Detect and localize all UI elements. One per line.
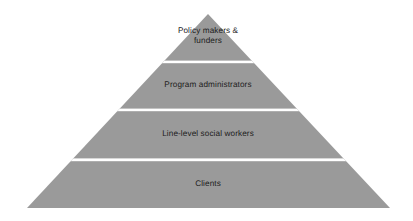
pyramid-shape (0, 0, 413, 221)
divider-tier-2-3 (20, 158, 400, 161)
divider-tier-1-2 (20, 109, 400, 112)
divider-tier-0-1 (20, 61, 400, 64)
pyramid-diagram: Policy makers & funders Program administ… (0, 0, 413, 221)
